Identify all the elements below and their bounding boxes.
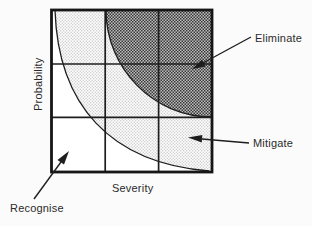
y-axis-label: Probability	[32, 57, 44, 111]
recognise-arrow-line	[34, 162, 61, 199]
risk-matrix-canvas: Probability Severity Eliminate Mitigate …	[0, 0, 312, 226]
x-axis-label: Severity	[112, 182, 154, 194]
region-label-eliminate: Eliminate	[255, 32, 302, 44]
risk-matrix-figure: Probability Severity Eliminate Mitigate …	[0, 0, 312, 226]
region-label-mitigate: Mitigate	[253, 137, 293, 149]
region-label-recognise: Recognise	[10, 202, 64, 214]
